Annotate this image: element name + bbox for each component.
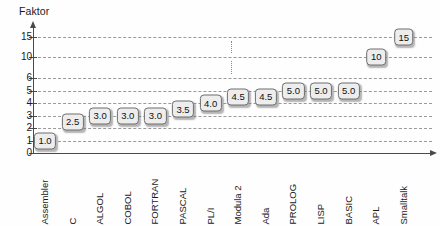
x-axis-category-text: APL — [371, 206, 381, 224]
value-box: 5.0 — [337, 82, 359, 99]
x-axis-category-label: Modula 2 — [231, 156, 245, 224]
value-box: 4.0 — [199, 95, 221, 112]
x-axis-category-label: PROLOG — [286, 156, 300, 224]
x-axis-category-text: Smalltalk — [399, 185, 409, 224]
y-axis-tick-label: 5 — [6, 86, 32, 96]
value-box: 3.0 — [117, 107, 139, 124]
x-axis-category-label: APL — [369, 156, 383, 224]
x-axis-category-label: C — [66, 156, 80, 224]
y-axis-tick-label: 3 — [6, 111, 32, 121]
x-axis-category-text: LISP — [316, 203, 326, 224]
x-axis-category-text: BASIC — [344, 195, 354, 224]
x-axis-category-label: BASIC — [342, 156, 356, 224]
plot-area: 01234561015 1.02.53.03.03.03.54.04.54.55… — [0, 0, 440, 226]
x-axis-category-text: Ada — [261, 207, 271, 224]
gridline — [33, 141, 432, 142]
x-axis-category-label: LISP — [314, 156, 328, 224]
x-axis-category-text: COBOL — [123, 191, 133, 224]
scale-break-marker — [231, 41, 232, 53]
value-box: 10 — [366, 48, 386, 65]
y-axis-tick-label: 15 — [6, 32, 32, 42]
x-axis-category-label: COBOL — [121, 156, 135, 224]
y-axis-tick-label: 6 — [6, 73, 32, 83]
y-axis-tick-label: 1 — [6, 136, 32, 146]
y-axis-arrow-icon — [30, 21, 36, 28]
value-box: 1.0 — [34, 132, 56, 149]
value-box: 4.5 — [227, 88, 249, 105]
x-axis-category-text: FORTRAN — [150, 178, 160, 224]
gridline — [33, 128, 432, 129]
value-box: 3.5 — [172, 101, 194, 118]
x-axis-line — [33, 153, 431, 154]
value-box: 5.0 — [282, 82, 304, 99]
value-box: 4.5 — [255, 88, 277, 105]
x-axis-category-text: PL/I — [206, 207, 216, 224]
value-box: 15 — [394, 29, 414, 46]
gridline — [33, 78, 432, 79]
value-box: 2.5 — [61, 113, 83, 130]
value-box: 5.0 — [310, 82, 332, 99]
y-axis-tick-label: 2 — [6, 123, 32, 133]
x-axis-category-label: PASCAL — [176, 156, 190, 224]
x-axis-category-label: FORTRAN — [148, 156, 162, 224]
x-axis-category-label: PL/I — [204, 156, 218, 224]
x-axis-category-label: ALGOL — [93, 156, 107, 224]
x-axis-category-text: C — [68, 217, 78, 224]
x-axis-category-text: ALGOL — [95, 192, 105, 224]
y-axis-tick-label: 10 — [6, 52, 32, 62]
x-axis-category-label: Ada — [259, 156, 273, 224]
value-box: 3.0 — [89, 107, 111, 124]
chart-root: Faktor 01234561015 1.02.53.03.03.03.54.0… — [0, 0, 440, 226]
x-axis-category-label: Smalltalk — [397, 156, 411, 224]
x-axis-category-label: Assembler — [38, 156, 52, 224]
x-axis-category-text: Assembler — [40, 179, 50, 224]
scale-break-marker — [231, 61, 232, 74]
x-axis-arrow-icon — [430, 150, 437, 156]
y-axis-tick-label: 0 — [6, 148, 32, 158]
x-axis-category-text: PROLOG — [288, 183, 298, 224]
y-axis-tick-label: 4 — [6, 98, 32, 108]
value-box: 3.0 — [144, 107, 166, 124]
x-axis-category-text: PASCAL — [178, 187, 188, 224]
x-axis-category-text: Modula 2 — [233, 185, 243, 224]
gridline — [33, 37, 432, 38]
